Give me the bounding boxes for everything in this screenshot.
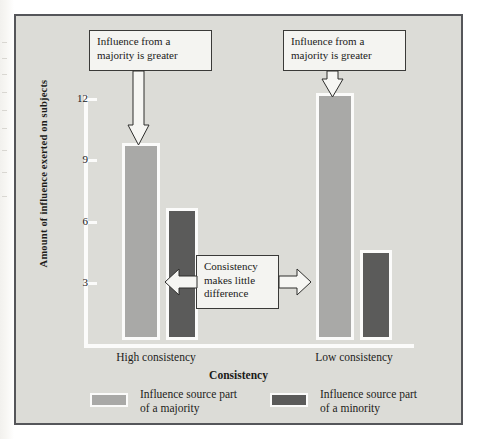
arrow-down-right-icon [322, 71, 344, 99]
callout-right-line2: majority is greater [291, 49, 399, 63]
y-tick-mark-3 [88, 282, 97, 285]
arrow-down-left-icon [128, 71, 150, 147]
x-axis-line [84, 344, 414, 348]
x-axis-title: Consistency [16, 369, 461, 381]
y-tick-mark-12 [88, 98, 97, 101]
arrow-right-icon [279, 269, 311, 295]
legend-majority-line2: of a majority [140, 402, 237, 416]
page-edge-artifact [0, 0, 14, 439]
legend-minority-line1: Influence source part [320, 388, 417, 402]
callout-left-line1: Influence from a [97, 35, 205, 49]
arrow-left-icon [165, 269, 197, 295]
callout-left-majority-greater: Influence from a majority is greater [89, 30, 212, 71]
legend-swatch-minority [270, 393, 308, 407]
bar-low-minority [360, 250, 392, 340]
callout-right-majority-greater: Influence from a majority is greater [283, 30, 406, 71]
callout-right-line1: Influence from a [291, 35, 399, 49]
figure-frame: 12 9 6 3 Amount of influence exerted on … [14, 14, 463, 425]
legend-minority-line2: of a minority [320, 402, 417, 416]
legend-label-majority: Influence source part of a majority [140, 388, 237, 415]
legend-swatch-majority [90, 393, 128, 407]
y-tick-mark-9 [88, 159, 97, 162]
bar-low-majority [316, 93, 354, 340]
chart-legend: Influence source part of a majority Infl… [16, 390, 461, 424]
y-tick-label-9: 9 [62, 154, 88, 165]
legend-label-minority: Influence source part of a minority [320, 388, 417, 415]
y-tick-label-3: 3 [62, 277, 88, 288]
callout-middle-line2: makes little [204, 274, 272, 288]
category-label-high-consistency: High consistency [76, 351, 236, 363]
callout-left-line2: majority is greater [97, 49, 205, 63]
callout-middle-consistency-little-difference: Consistency makes little difference [196, 255, 279, 309]
category-label-low-consistency: Low consistency [274, 351, 434, 363]
chart-plot-area: 12 9 6 3 Amount of influence exerted on … [16, 16, 461, 423]
y-tick-label-6: 6 [62, 216, 88, 227]
y-axis-title: Amount of influence exerted on subjects [38, 69, 49, 279]
bar-high-majority [122, 143, 160, 340]
y-tick-mark-6 [88, 221, 97, 224]
callout-middle-line3: difference [204, 287, 272, 301]
legend-majority-line1: Influence source part [140, 388, 237, 402]
y-tick-label-12: 12 [62, 93, 88, 104]
callout-middle-line1: Consistency [204, 260, 272, 274]
